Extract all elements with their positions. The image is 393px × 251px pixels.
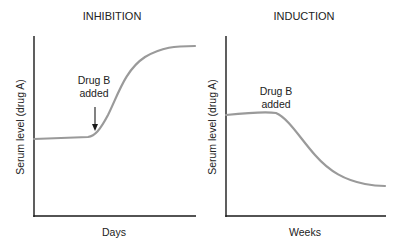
x-axis-label: Weeks — [289, 226, 321, 238]
annotation-line2: added — [261, 98, 290, 110]
serum-curve — [226, 112, 385, 186]
annotation-line2: added — [79, 87, 108, 99]
x-axis-label: Days — [102, 226, 126, 238]
panel-inhibition: INHIBITION Serum level (drug A) Days Dru… — [14, 10, 196, 238]
panel-title: INDUCTION — [273, 10, 334, 22]
arrowhead-icon — [92, 124, 98, 131]
panel-title: INHIBITION — [83, 10, 142, 22]
y-axis-label: Serum level (drug A) — [14, 79, 26, 175]
figure: INHIBITION Serum level (drug A) Days Dru… — [0, 0, 393, 251]
annotation-line1: Drug B — [78, 74, 111, 86]
annotation-line1: Drug B — [260, 85, 293, 97]
y-axis-label: Serum level (drug A) — [206, 79, 218, 175]
panel-induction: INDUCTION Serum level (drug A) Weeks Dru… — [206, 10, 386, 238]
serum-curve — [34, 46, 195, 139]
